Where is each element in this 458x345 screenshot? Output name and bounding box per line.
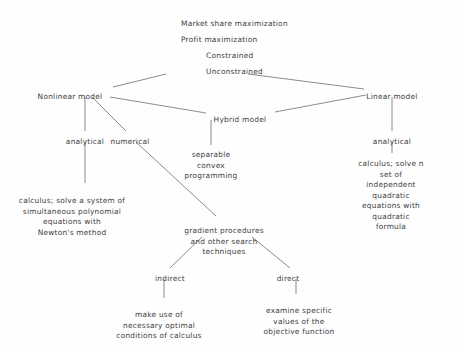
edge-unconstrained-to-nonlinear (113, 74, 166, 87)
node-objective-function-values-leaf: examine specific values of the objective… (264, 306, 335, 338)
node-newton-method-leaf: calculus; solve a system of simultaneous… (19, 196, 125, 238)
node-hybrid-model: Hybrid model (214, 115, 267, 126)
node-separable-convex-programming: separable convex programming (185, 150, 238, 182)
node-nonlinear-model: Nonlinear model (38, 92, 103, 103)
node-linear-model: Linear model (366, 92, 417, 103)
node-direct: direct (277, 274, 300, 285)
node-gradient-procedures: gradient procedures and other search tec… (184, 226, 264, 258)
node-profit-maximization: Profit maximization (181, 35, 257, 46)
node-nonlinear-numerical: numerical (110, 137, 149, 148)
node-indirect: indirect (155, 274, 185, 285)
node-quadratic-formula-leaf: calculus; solve n set of independent qua… (358, 159, 425, 233)
node-necessary-optimal-conditions-leaf: make use of necessary optimal conditions… (116, 310, 201, 342)
node-constrained: Constrained (206, 51, 253, 62)
node-market-share-maximization: Market share maximization (181, 19, 288, 30)
edge-unconstrained-to-linear (248, 74, 364, 89)
node-unconstrained: Unconstrained (206, 67, 263, 78)
edge-hybrid-to-linear (275, 95, 366, 112)
node-nonlinear-analytical: analytical (66, 137, 104, 148)
diagram-canvas: Market share maximizationProfit maximiza… (0, 0, 458, 345)
node-linear-analytical: analytical (373, 137, 411, 148)
edge-nonlinear-to-hybrid (110, 97, 206, 113)
